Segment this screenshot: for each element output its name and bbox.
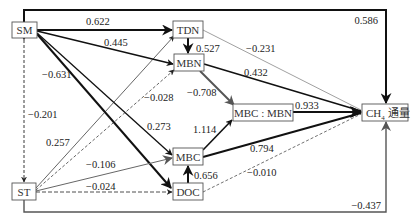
node-mbn: MBN <box>174 54 204 71</box>
coef-mbc-ratio: 1.114 <box>193 124 217 135</box>
coef-tdn-ch4: −0.231 <box>246 43 276 54</box>
coef-ratio-ch4: 0.933 <box>295 100 319 111</box>
coef-doc-ch4: −0.010 <box>247 167 277 178</box>
node-sm: SM <box>12 22 37 38</box>
coef-sm-tdn: 0.622 <box>86 16 110 27</box>
node-ratio-label: MBC : MBN <box>234 107 292 119</box>
coef-doc-mbc: 0.656 <box>194 170 218 181</box>
coef-sm-doc: −0.631 <box>42 69 72 80</box>
node-st-label: ST <box>18 186 31 198</box>
coef-st-mbc: −0.106 <box>86 159 116 170</box>
coef-sm-ch4: 0.586 <box>354 15 378 26</box>
coef-mbn-ratio: −0.708 <box>187 87 217 98</box>
coef-st-ch4: −0.437 <box>351 200 381 211</box>
node-mbn-label: MBN <box>176 57 201 69</box>
node-st: ST <box>12 183 36 200</box>
node-mbc: MBC <box>173 148 203 165</box>
coef-sm-mbc: 0.273 <box>147 121 171 132</box>
node-tdn-label: TDN <box>177 24 200 36</box>
node-mbc-label: MBC <box>176 151 200 163</box>
coef-st-mbn: −0.028 <box>144 92 174 103</box>
coef-st-sm: −0.201 <box>28 109 58 120</box>
node-mbc-mbn-ratio: MBC : MBN <box>233 104 293 121</box>
path-diagram: SM ST TDN MBN MBC DOC MBC : MBN CH4 通量 0… <box>0 0 416 223</box>
coef-mbn-ch4: 0.432 <box>244 67 268 78</box>
node-doc: DOC <box>173 183 203 200</box>
node-doc-label: DOC <box>176 186 199 198</box>
coef-st-tdn: 0.257 <box>46 137 70 148</box>
coef-mbc-ch4: 0.794 <box>250 143 274 154</box>
node-sm-label: SM <box>17 24 33 36</box>
node-ch4-flux: CH4 通量 <box>362 104 410 122</box>
coef-st-doc: −0.024 <box>86 181 116 192</box>
coef-sm-mbn: 0.445 <box>104 37 128 48</box>
coef-tdn-mbn: 0.527 <box>196 43 220 54</box>
path-st-ch4 <box>24 122 386 212</box>
node-tdn: TDN <box>173 21 203 38</box>
